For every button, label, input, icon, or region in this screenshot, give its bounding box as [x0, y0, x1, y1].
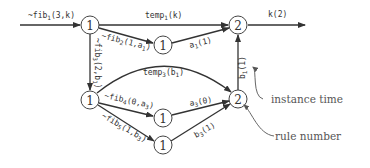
- svg-text:1: 1: [159, 139, 167, 153]
- label-fib2: ~fib2(1,a1): [100, 31, 152, 53]
- label-temp3: temp3(b1): [143, 68, 184, 78]
- pointer-rule-number: [244, 105, 274, 136]
- label-fib5: ~fib5(1,b3): [100, 111, 149, 145]
- node-C: 2: [229, 16, 247, 34]
- label-b1: b1(1): [238, 56, 248, 79]
- label-fib3: ~fib3(2,b1): [92, 38, 102, 89]
- dataflow-diagram: 1 1 2 1 1 1 2 ~fib1(3,k) temp1(k) ~fib2(…: [0, 0, 370, 168]
- node-B: 1: [154, 36, 172, 54]
- svg-text:1: 1: [159, 112, 167, 126]
- label-k2: k(2): [268, 10, 287, 19]
- label-fib1: ~fib1(3,k): [28, 11, 75, 21]
- label-temp1: temp1(k): [145, 11, 182, 21]
- annotation-rule-number: rule number: [275, 130, 342, 142]
- annotation-instance-time: instance time: [271, 93, 343, 105]
- label-fib4: ~fib4(0,a3): [103, 91, 155, 111]
- svg-text:1: 1: [86, 19, 94, 33]
- node-F: 1: [154, 136, 172, 154]
- svg-text:2: 2: [234, 93, 242, 107]
- pointer-instance-time: [253, 67, 263, 99]
- label-a3: a3(0): [189, 95, 213, 109]
- label-b3: b3(1): [193, 120, 218, 140]
- svg-text:1: 1: [159, 39, 167, 53]
- node-E: 1: [154, 109, 172, 127]
- node-D: 1: [81, 91, 99, 109]
- svg-text:2: 2: [234, 19, 242, 33]
- node-A: 1: [81, 16, 99, 34]
- svg-text:1: 1: [86, 94, 94, 108]
